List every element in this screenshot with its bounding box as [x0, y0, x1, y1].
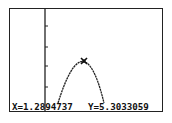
trace-x-readout: X=1.2894737 — [12, 102, 73, 112]
parabola-curve — [58, 62, 104, 104]
trace-y-readout: Y=5.3033059 — [88, 102, 149, 112]
